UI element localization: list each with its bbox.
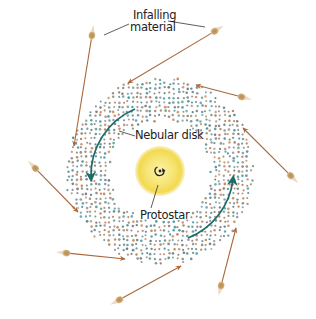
infall-item-3 [196,85,253,103]
protostar-label: Protostar [140,209,189,221]
particle-icon [209,23,225,36]
nebular-disk-diagram: Infalling material Nebular disk Protosta… [0,0,316,319]
infall-arrow [123,266,182,298]
particle-icon [215,281,225,297]
infall-arrow [74,39,91,146]
infalling-label-line2: material [130,21,176,33]
particle-icon [88,25,97,40]
particle-icon [237,93,253,103]
particle-icon [109,295,125,308]
infall-item-5 [26,158,78,212]
infall-arrow [128,33,212,83]
particle-icon [56,249,71,257]
nebular-disk-label: Nebular disk [135,129,203,141]
infall-item-4 [243,128,300,185]
infall-item-7 [109,266,181,308]
infall-arrow [196,85,238,96]
diagram-canvas [0,0,316,319]
infalling-leader-left [104,24,129,35]
infall-arrow [38,171,78,212]
infall-arrow [243,128,288,173]
infall-arrow [70,253,125,259]
infall-item-1 [74,25,97,146]
infalling-material-label: Infalling material [133,9,176,33]
infall-item-8 [215,228,236,297]
protostar [135,146,185,196]
